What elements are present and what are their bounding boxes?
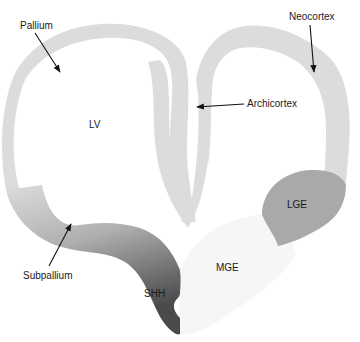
label-neocortex: Neocortex — [289, 11, 335, 22]
label-subpallium: Subpallium — [23, 270, 72, 281]
label-pallium: Pallium — [20, 20, 53, 31]
left-ventricle — [37, 58, 168, 222]
diagram-canvas: Pallium Neocortex Archicortex LV LGE MGE… — [0, 0, 360, 342]
label-mge: MGE — [216, 262, 239, 273]
label-lv: LV — [89, 119, 101, 130]
label-lge: LGE — [287, 199, 307, 210]
telencephalon-diagram: Pallium Neocortex Archicortex LV LGE MGE… — [0, 0, 360, 342]
label-shh: SHH — [144, 288, 165, 299]
label-archicortex: Archicortex — [247, 98, 297, 109]
